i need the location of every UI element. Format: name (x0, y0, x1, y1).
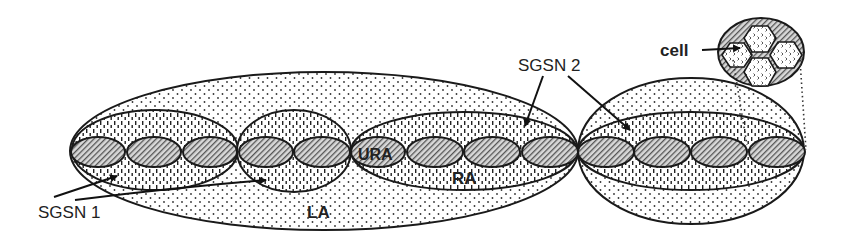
ura-cell (522, 137, 578, 167)
cell-label: cell (660, 41, 688, 60)
ura-cell (183, 137, 237, 167)
ura-cell (127, 137, 181, 167)
ra-label: RA (452, 169, 477, 188)
ura-cell (634, 137, 690, 167)
ura-cell (239, 137, 293, 167)
sgsn1-label: SGSN 1 (38, 203, 100, 222)
ura-cell (71, 137, 125, 167)
ura-cell (749, 137, 805, 167)
ura-label: URA (358, 146, 393, 163)
ura-cell (464, 137, 520, 167)
sgsn2-label: SGSN 2 (518, 56, 580, 75)
mobility-area-diagram: SGSN 1 SGSN 2 LA RA URA cell (0, 0, 856, 246)
ura-cell (578, 137, 634, 167)
hex-cell (744, 58, 776, 86)
ura-cell (407, 137, 463, 167)
la-label: LA (307, 203, 330, 222)
ura-cell (691, 137, 747, 167)
hex-cell (770, 42, 802, 68)
ura-cell (294, 137, 350, 167)
